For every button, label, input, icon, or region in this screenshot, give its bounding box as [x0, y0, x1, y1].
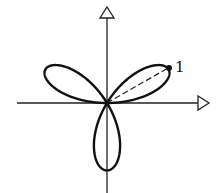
petal-tip-dot [166, 65, 172, 71]
axes [17, 7, 209, 193]
y-axis-arrow-icon [100, 7, 114, 18]
x-axis-arrow-icon [198, 96, 209, 110]
tip-label: 1 [175, 58, 185, 76]
rose-curve-diagram: 1 [0, 0, 219, 193]
